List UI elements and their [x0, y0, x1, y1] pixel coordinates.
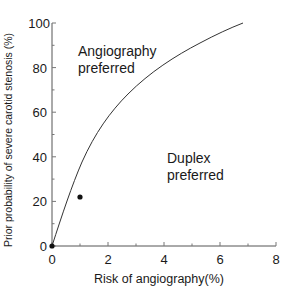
y-tick-label: 20 [33, 194, 47, 209]
region-label-duplex: Duplex preferred [167, 150, 224, 183]
x-tick-label: 2 [104, 252, 111, 267]
x-axis-title: Risk of angiography(%) [94, 272, 224, 286]
chart: 0 20 40 60 80 100 0 2 4 6 8 Risk of angi… [0, 0, 293, 297]
y-tick-label: 40 [33, 150, 47, 165]
y-axis-title: Prior probability of severe carotid sten… [2, 33, 14, 247]
y-ticks [52, 23, 56, 246]
y-tick-label: 100 [28, 16, 50, 31]
y-tick-label: 0 [40, 239, 47, 254]
y-tick-label: 60 [33, 105, 47, 120]
y-tick-label: 80 [33, 61, 47, 76]
x-tick-label: 0 [48, 252, 55, 267]
x-tick-label: 8 [272, 252, 279, 267]
x-tick-label: 6 [216, 252, 223, 267]
region-label-angiography: Angiography preferred [78, 43, 161, 76]
x-tick-label: 4 [160, 252, 167, 267]
data-point-origin [49, 243, 54, 248]
x-ticks [52, 242, 276, 246]
data-point [77, 194, 82, 199]
